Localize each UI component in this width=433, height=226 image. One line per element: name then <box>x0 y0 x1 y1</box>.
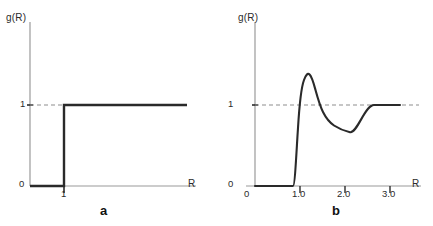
panel-a-plot <box>0 0 216 226</box>
panel-a-ytick-label-0: 0 <box>19 178 24 189</box>
panel-a-caption: a <box>100 203 107 218</box>
panel-b-xtick-label-0: 0 <box>244 188 249 199</box>
panel-a-y-axis-label: g(R) <box>6 12 26 23</box>
panel-b-y-axis-label: g(R) <box>238 12 258 23</box>
panel-b-xtick-label-1: 1.0 <box>292 188 305 199</box>
panel-b: g(R) R 1 0 0 1.0 2.0 3.0 b <box>216 0 433 226</box>
panel-b-curve <box>255 74 400 186</box>
panel-a-x-axis-label: R <box>188 178 195 189</box>
panel-a: g(R) R 1 0 1 a <box>0 0 216 226</box>
panel-a-xtick-label-1: 1 <box>61 188 66 199</box>
panel-b-ytick-label-1: 1 <box>228 98 233 109</box>
panel-b-x-axis-label: R <box>412 178 419 189</box>
panel-b-xtick-label-2: 2.0 <box>337 188 350 199</box>
panel-a-curve <box>30 105 187 186</box>
panel-a-ytick-label-1: 1 <box>20 98 25 109</box>
panel-b-xtick-label-3: 3.0 <box>382 188 395 199</box>
panel-b-caption: b <box>332 203 340 218</box>
panel-b-ytick-label-0: 0 <box>228 178 233 189</box>
figure-radial-distribution-functions: g(R) R 1 0 1 a g(R) R 1 0 0 1.0 2 <box>0 0 433 226</box>
